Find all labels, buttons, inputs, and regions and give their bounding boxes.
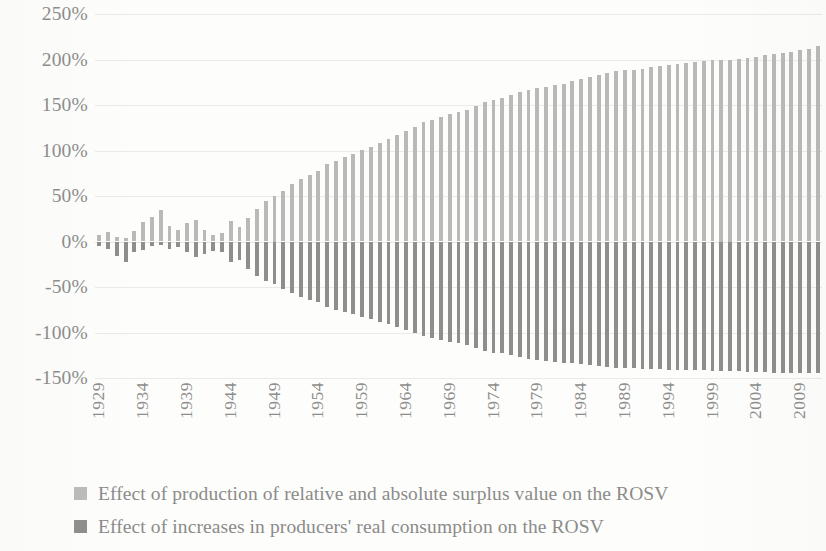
bar-negative (579, 242, 583, 365)
bar-negative (474, 242, 478, 348)
bar-positive (439, 117, 443, 242)
x-axis: 1929193419391944194919541959196419691974… (95, 382, 822, 474)
bar-positive (308, 175, 312, 241)
bar-negative (711, 242, 715, 371)
bar-column (527, 14, 531, 378)
bar-column (281, 14, 285, 378)
bar-negative (150, 242, 154, 247)
bar-positive (360, 150, 364, 242)
bar-positive (684, 63, 688, 241)
bar-negative (527, 242, 531, 359)
bar-negative (220, 242, 224, 253)
bar-positive (334, 161, 338, 242)
bar-positive (632, 70, 636, 242)
bar-column (763, 14, 767, 378)
bar-negative (159, 242, 163, 246)
bar-positive (316, 171, 320, 242)
bar-positive (746, 58, 750, 242)
bar-column (430, 14, 434, 378)
bar-column (351, 14, 355, 378)
bar-negative (343, 242, 347, 313)
bar-negative (203, 242, 207, 255)
y-axis-tick-label: 250% (0, 4, 88, 24)
bar-negative (719, 242, 723, 371)
bar-column (570, 14, 574, 378)
bar-column (343, 14, 347, 378)
bar-negative (176, 242, 180, 247)
bar-series-group (95, 14, 822, 378)
bar-negative (238, 242, 242, 260)
x-axis-tick-label: 2004 (747, 382, 765, 419)
bar-positive (299, 179, 303, 242)
bar-positive (220, 233, 224, 241)
bar-negative (570, 242, 574, 364)
bar-positive (255, 209, 259, 242)
bar-positive (404, 131, 408, 241)
bar-negative (535, 242, 539, 360)
bar-positive (246, 218, 250, 242)
bar-negative (369, 242, 373, 319)
bar-negative (439, 242, 443, 340)
bar-column (684, 14, 688, 378)
legend-item: Effect of increases in producers' real c… (74, 510, 814, 543)
bar-negative (229, 242, 233, 262)
bar-column (168, 14, 172, 378)
bar-negative (115, 242, 119, 257)
bar-column (553, 14, 557, 378)
x-axis-tick-label: 1929 (90, 382, 108, 419)
bar-negative (106, 242, 110, 249)
bar-positive (614, 71, 618, 241)
bar-positive (273, 196, 277, 242)
light-gray-swatch (74, 487, 87, 500)
bar-negative (246, 242, 250, 269)
bar-positive (527, 90, 531, 242)
bar-positive (702, 61, 706, 241)
bar-negative (614, 242, 618, 368)
bar-positive (422, 122, 426, 241)
y-axis-tick-label: 200% (0, 50, 88, 70)
x-axis-tick-label: 1969 (441, 382, 459, 419)
bar-negative (97, 242, 101, 247)
legend-item-label: Effect of increases in producers' real c… (98, 516, 604, 538)
bar-column (457, 14, 461, 378)
bar-negative (255, 242, 259, 277)
bar-column (676, 14, 680, 378)
y-axis-tick-label: 100% (0, 141, 88, 161)
bar-negative (273, 242, 277, 285)
bar-positive (667, 65, 671, 242)
bar-column (623, 14, 627, 378)
bar-column (378, 14, 382, 378)
legend-item: Effect of production of relative and abs… (74, 477, 814, 510)
bar-column (141, 14, 145, 378)
bar-positive (597, 75, 601, 242)
bar-negative (351, 242, 355, 315)
bar-positive (781, 53, 785, 241)
bar-positive (737, 59, 741, 242)
bar-column (220, 14, 224, 378)
bar-column (579, 14, 583, 378)
bar-negative (684, 242, 688, 370)
bar-negative (667, 242, 671, 370)
bar-column (387, 14, 391, 378)
bar-negative (737, 242, 741, 371)
bar-column (649, 14, 653, 378)
bar-positive (658, 66, 662, 242)
bar-negative (492, 242, 496, 353)
bar-column (535, 14, 539, 378)
bar-positive (185, 223, 189, 241)
y-axis-tick-label: -100% (0, 323, 88, 343)
bar-column (746, 14, 750, 378)
dark-gray-swatch (74, 520, 87, 533)
bar-column (500, 14, 504, 378)
bar-positive (711, 60, 715, 241)
bar-negative (781, 242, 785, 373)
bar-positive (430, 120, 434, 242)
bar-negative (605, 242, 609, 368)
bar-column (492, 14, 496, 378)
bar-negative (465, 242, 469, 346)
bar-positive (194, 220, 198, 242)
bar-positive (457, 112, 461, 241)
bar-positive (264, 201, 268, 241)
y-axis: 250%200%150%100%50%0%-50%-100%-150% (0, 0, 88, 392)
bar-column (597, 14, 601, 378)
